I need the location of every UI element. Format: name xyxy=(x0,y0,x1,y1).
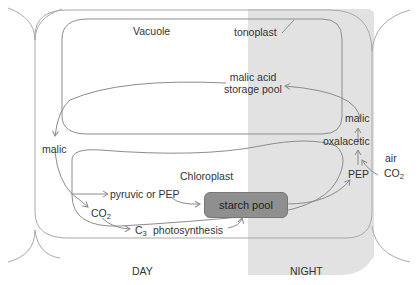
day-label: DAY xyxy=(132,265,153,277)
c3-label: C3 xyxy=(135,224,147,240)
air-co2-label: CO2 xyxy=(384,167,404,183)
starch-pool: starch pool xyxy=(204,192,288,218)
malic-acid-storage-pool: malic acid storage pool xyxy=(221,71,285,95)
malic-right-label: malic xyxy=(345,112,370,124)
left-neighbor-cell xyxy=(8,8,35,40)
air-label: air xyxy=(385,152,397,164)
right-neighbor-cell xyxy=(372,10,410,52)
photosynthesis-label: photosynthesis xyxy=(153,224,223,236)
malic-left-label: malic xyxy=(42,143,67,155)
co2-day-label: CO2 xyxy=(91,207,111,223)
tonoplast-label: tonoplast xyxy=(234,26,277,38)
pep-right-label: PEP xyxy=(348,168,369,180)
pyruvic-pep-label: pyruvic or PEP xyxy=(110,188,179,200)
night-label: NIGHT xyxy=(290,265,323,277)
chloroplast-label: Chloroplast xyxy=(180,170,233,182)
storage-pool-line2: storage pool xyxy=(221,83,285,95)
vacuole-label: Vacuole xyxy=(133,25,170,37)
storage-pool-line1: malic acid xyxy=(221,71,285,83)
oxalacetic-label: oxalacetic xyxy=(323,135,370,147)
